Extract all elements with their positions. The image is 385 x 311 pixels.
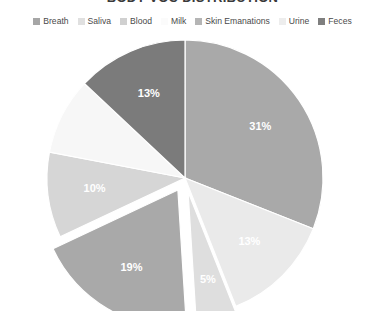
pie-chart-figure: BODY VOC DISTRIBUTION Breath Saliva Bloo… — [0, 0, 385, 311]
chart-title: BODY VOC DISTRIBUTION — [0, 0, 385, 4]
legend-swatch-urine — [279, 18, 286, 25]
legend-label-urine: Urine — [289, 16, 310, 26]
legend-item-saliva[interactable]: Saliva — [78, 16, 111, 26]
pie-slice-label-skin-emanations: 10% — [84, 182, 106, 194]
legend-swatch-feces — [318, 18, 325, 25]
legend-label-skin-emanations: Skin Emanations — [205, 16, 270, 26]
legend-swatch-skin-emanations — [195, 18, 202, 25]
pie-slice-label-breath: 31% — [249, 120, 271, 132]
legend-item-skin-emanations[interactable]: Skin Emanations — [195, 16, 270, 26]
pie-slice-label-milk: 19% — [120, 261, 142, 273]
legend-item-breath[interactable]: Breath — [33, 16, 68, 26]
legend-swatch-blood — [120, 18, 127, 25]
pie-svg: 31%13%5%19%10%13% — [0, 34, 385, 311]
legend-swatch-saliva — [78, 18, 85, 25]
legend-swatch-milk — [161, 18, 168, 25]
legend-label-saliva: Saliva — [88, 16, 111, 26]
legend-item-urine[interactable]: Urine — [279, 16, 310, 26]
legend-label-blood: Blood — [130, 16, 152, 26]
pie-slice-label-blood: 5% — [200, 273, 216, 285]
legend-label-milk: Milk — [171, 16, 186, 26]
legend-swatch-breath — [33, 18, 40, 25]
legend-label-breath: Breath — [43, 16, 68, 26]
legend-item-blood[interactable]: Blood — [120, 16, 152, 26]
legend-item-milk[interactable]: Milk — [161, 16, 186, 26]
legend-item-feces[interactable]: Feces — [318, 16, 351, 26]
pie-slice-label-feces: 13% — [138, 87, 160, 99]
pie-slice-label-saliva: 13% — [238, 235, 260, 247]
pie-plot-area: 31%13%5%19%10%13% — [0, 34, 385, 311]
chart-legend: Breath Saliva Blood Milk Skin Emanations… — [0, 16, 385, 26]
legend-label-feces: Feces — [328, 16, 351, 26]
